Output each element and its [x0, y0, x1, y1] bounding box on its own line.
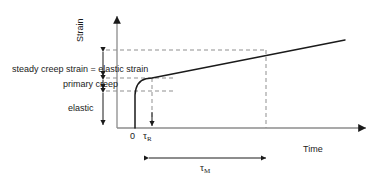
tau-r-label: τR: [143, 131, 152, 143]
creep-curve-group: [135, 40, 345, 128]
y-axis-label: Strain: [76, 18, 85, 42]
tau-r-subscript: R: [147, 135, 152, 143]
axes-group: [117, 16, 366, 128]
x-axis-label: Time: [303, 145, 323, 154]
tau-m-label: τM: [200, 163, 210, 175]
reference-lines-group: [106, 50, 266, 128]
creep-strain-diagram: [0, 0, 391, 182]
tau-m-subscript: M: [204, 167, 210, 175]
annotation-elastic: elastic: [68, 104, 94, 113]
annotation-primary-creep: primary creep: [63, 80, 118, 89]
origin-label: 0: [130, 132, 135, 141]
creep-strain-curve: [135, 40, 345, 128]
annotation-steady-creep-strain: steady creep strain = elastic strain: [12, 65, 148, 74]
